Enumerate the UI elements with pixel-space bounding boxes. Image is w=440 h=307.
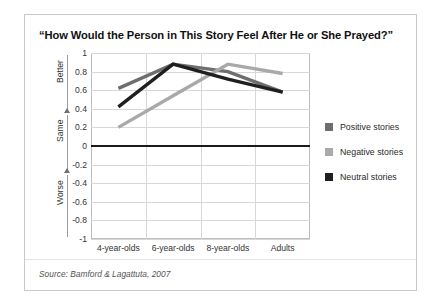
- legend-item[interactable]: Positive stories: [325, 114, 417, 139]
- series-line-negative-stories: [118, 64, 282, 127]
- figure-card: “How Would the Person in This Story Feel…: [24, 14, 417, 291]
- series-lines: [91, 53, 310, 239]
- y-axis-tick-label: 0: [61, 141, 87, 151]
- x-axis-tick-label: 8-year-olds: [200, 243, 256, 254]
- y-axis-tick-label: -0.4: [61, 178, 87, 188]
- x-axis-tick-label: 6-year-olds: [145, 243, 201, 254]
- legend-swatch-icon: [325, 123, 333, 131]
- y-axis-tick-labels: 10.80.60.40.20-0.2-0.4-0.6-0.8-1: [57, 53, 87, 239]
- legend-item-label: Positive stories: [340, 122, 399, 132]
- x-axis-tick-label: 4-year-olds: [90, 243, 146, 254]
- legend-item-label: Neutral stories: [340, 172, 397, 182]
- chart-title: “How Would the Person in This Story Feel…: [39, 29, 404, 42]
- gridline-horizontal: [91, 239, 310, 240]
- y-axis-tick-label: 0.6: [61, 85, 87, 95]
- y-axis-tick-label: -0.8: [61, 215, 87, 225]
- legend-item[interactable]: Negative stories: [325, 139, 417, 164]
- legend-item-label: Negative stories: [340, 147, 403, 157]
- y-axis-tick-label: -0.6: [61, 197, 87, 207]
- chart-legend: Positive storiesNegative storiesNeutral …: [325, 114, 417, 189]
- y-axis-tick-label: 0.8: [61, 67, 87, 77]
- y-axis-tick-label: -1: [61, 234, 87, 244]
- legend-swatch-icon: [325, 173, 333, 181]
- legend-swatch-icon: [325, 148, 333, 156]
- source-note: Source: Bamford & Lagattuta, 2007: [39, 269, 170, 279]
- y-axis-tick-label: 0.4: [61, 104, 87, 114]
- x-axis-tick-label: Adults: [255, 243, 311, 254]
- legend-item[interactable]: Neutral stories: [325, 164, 417, 189]
- y-axis-tick-label: -0.2: [61, 160, 87, 170]
- y-axis-tick-label: 1: [61, 48, 87, 58]
- y-axis-tick-label: 0.2: [61, 122, 87, 132]
- plot-area: [91, 53, 310, 239]
- source-divider: [25, 259, 416, 260]
